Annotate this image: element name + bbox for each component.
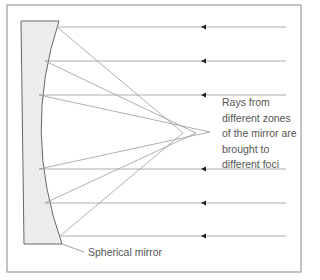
- annotation-line: Rays from: [222, 95, 297, 111]
- reflected-rays: [39, 27, 210, 236]
- arrow-left-icon: [201, 234, 206, 239]
- mirror-leader-line: [62, 244, 84, 252]
- arrow-left-icon: [201, 201, 206, 206]
- arrow-left-icon: [201, 59, 206, 64]
- annotation-line: of the mirror are: [222, 126, 297, 142]
- annotation-line: brought to: [222, 142, 297, 158]
- arrow-left-icon: [201, 93, 206, 98]
- annotation-line: different foci: [222, 157, 297, 173]
- arrow-heads: [201, 25, 206, 239]
- mirror-label: Spherical mirror: [88, 245, 162, 261]
- annotation-line: different zones: [222, 111, 297, 127]
- arrow-left-icon: [201, 167, 206, 172]
- arrow-left-icon: [201, 25, 206, 30]
- annotation-text: Rays from different zones of the mirror …: [222, 95, 297, 173]
- spherical-mirror: [21, 21, 62, 244]
